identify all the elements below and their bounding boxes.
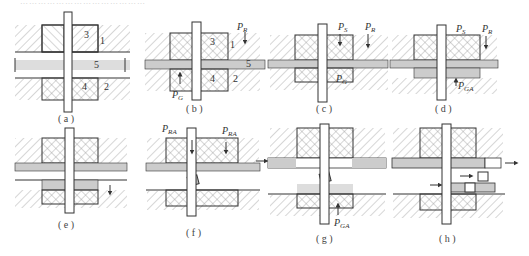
caption-f: ( f ) [186, 227, 201, 239]
caption-b: ( b ) [186, 103, 203, 115]
svg-text:PR: PR [364, 21, 376, 34]
panel-g: PGA ( g ) [256, 124, 386, 245]
panel-a: 3 1 5 4 2 ( a ) [15, 12, 130, 125]
panel-h: ( h ) [392, 124, 516, 245]
svg-text:PRA: PRA [221, 125, 237, 138]
svg-text:4: 4 [210, 73, 215, 84]
svg-text:5: 5 [246, 58, 251, 69]
svg-text:PRA: PRA [161, 123, 177, 136]
panel-e: ( e ) [15, 128, 127, 231]
panel-d: PS PR PGA ( d ) [390, 23, 498, 115]
caption-d: ( d ) [435, 103, 452, 115]
caption-e: ( e ) [58, 219, 74, 231]
svg-text:1: 1 [230, 39, 235, 50]
svg-text:PR: PR [236, 21, 248, 34]
svg-text:3: 3 [210, 36, 215, 47]
caption-a: ( a ) [58, 113, 74, 125]
panel-b: PR 31 5 42 PG ( b ) [145, 21, 265, 115]
svg-text:PS: PS [337, 21, 348, 34]
svg-text:2: 2 [233, 73, 238, 84]
caption-h: ( h ) [439, 233, 456, 245]
label-2: 2 [104, 81, 109, 92]
label-5: 5 [94, 59, 99, 70]
svg-text:PGA: PGA [333, 217, 350, 230]
caption-g: ( g ) [316, 233, 333, 245]
svg-text:PR: PR [481, 23, 493, 36]
panel-f: PRA PRA ( f ) [146, 123, 260, 239]
svg-text:PS: PS [455, 23, 466, 36]
caption-c: ( c ) [316, 103, 332, 115]
label-3: 3 [84, 29, 89, 40]
label-4: 4 [82, 81, 87, 92]
label-1: 1 [100, 35, 105, 46]
fine-blanking-process-diagram: 3 1 5 4 2 ( a ) PR 31 5 42 PG ( b ) PS P… [0, 0, 529, 256]
panel-c: PS PR PG ( c ) [268, 21, 388, 115]
